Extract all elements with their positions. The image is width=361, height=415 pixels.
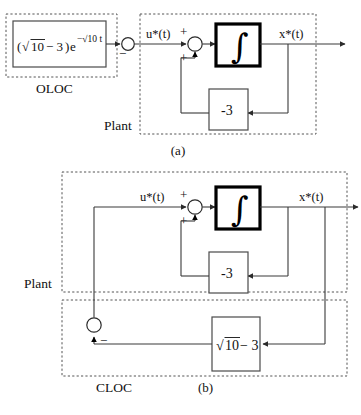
- oloc-formula-close-paren: ): [65, 39, 69, 54]
- sign-minus-junction-a: −: [119, 46, 126, 61]
- oloc-formula-open-paren: (: [17, 39, 21, 54]
- signal-label-u-star-a: u*(t): [146, 27, 170, 41]
- block-diagram-svg: ( √ 10 − 3 ) e −√10 t OLOC − u*(t): [0, 0, 361, 415]
- plant-label-a: Plant: [104, 118, 132, 133]
- oloc-formula-radicand: 10: [31, 39, 44, 54]
- cloc-gain-minus-three: − 3: [240, 338, 258, 353]
- plant-summing-junction-b[interactable]: [188, 200, 202, 214]
- integrator-symbol-a: ∫: [231, 26, 249, 66]
- oloc-formula-radical-sign: √: [22, 39, 30, 54]
- oloc-formula-minus-three: − 3: [46, 39, 63, 54]
- gain-label-minus3-a: -3: [221, 103, 233, 118]
- gain-label-minus3-b: -3: [221, 266, 233, 281]
- figure-container: ( √ 10 − 3 ) e −√10 t OLOC − u*(t): [0, 0, 361, 415]
- plant-summing-junction-a[interactable]: [188, 37, 202, 51]
- panel-a: ( √ 10 − 3 ) e −√10 t OLOC − u*(t): [6, 14, 345, 158]
- caption-b: (b): [198, 380, 213, 395]
- sign-minus-feedback-b: −: [100, 333, 107, 348]
- plant-label-b: Plant: [24, 276, 52, 291]
- sign-plus-top-a: +: [180, 24, 187, 39]
- panel-b: u*(t) + + ∫ x*(t) -3 Pl: [24, 172, 358, 395]
- cloc-label-b: CLOC: [96, 380, 132, 395]
- cloc-gain-radicand: 10: [225, 338, 239, 353]
- cloc-gain-formula-b: √ 10 − 3: [216, 338, 258, 354]
- oloc-label-a: OLOC: [36, 81, 73, 96]
- signal-label-u-star-b: u*(t): [140, 190, 164, 204]
- cloc-gain-radical-sign: √: [216, 338, 224, 353]
- signal-label-x-star-b: x*(t): [299, 190, 323, 204]
- caption-a: (a): [171, 143, 185, 158]
- sign-plus-top-b: +: [180, 187, 187, 202]
- oloc-formula-base-e: e: [70, 39, 76, 54]
- oloc-formula-exponent: −√10 t: [77, 34, 102, 44]
- feedback-summing-junction-b[interactable]: [87, 318, 101, 332]
- integrator-symbol-b: ∫: [231, 189, 249, 229]
- signal-label-x-star-a: x*(t): [279, 27, 303, 41]
